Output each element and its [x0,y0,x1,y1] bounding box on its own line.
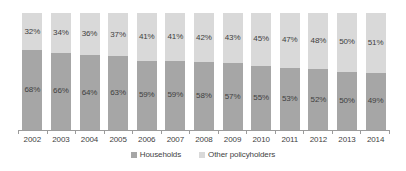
axis-tick [132,130,133,134]
bar-segment-households[interactable]: 49% [366,73,386,130]
bar-group[interactable]: 45% 55% [247,13,276,130]
bar-segment-label: 45% [253,35,269,43]
bar-stack[interactable]: 51% 49% [366,13,386,130]
x-axis-labels: 2002 2003 2004 2005 2006 2007 2008 2009 … [18,135,390,145]
bar-group[interactable]: 50% 50% [333,13,362,130]
x-axis-tick-label: 2014 [361,135,390,145]
bar-stack[interactable]: 48% 52% [308,13,328,130]
bar-stack[interactable]: 34% 66% [51,13,71,130]
bar-segment-other-policyholders[interactable]: 36% [80,13,100,55]
bar-stack[interactable]: 37% 63% [108,13,128,130]
bar-segment-label: 43% [225,34,241,42]
bar-stack[interactable]: 42% 58% [194,13,214,130]
legend-item-households[interactable]: Households [131,150,181,160]
legend-item-other-policyholders[interactable]: Other policyholders [199,150,275,160]
bar-segment-households[interactable]: 57% [223,63,243,130]
x-axis-tick-label: 2002 [18,135,47,145]
bar-segment-other-policyholders[interactable]: 32% [22,13,42,50]
bar-segment-label: 48% [311,37,327,45]
axis-tick [218,130,219,134]
bar-segment-other-policyholders[interactable]: 41% [165,13,185,61]
axis-tick [47,130,48,134]
bar-segment-label: 64% [82,89,98,97]
bar-segment-other-policyholders[interactable]: 47% [280,13,300,68]
bar-segment-other-policyholders[interactable]: 37% [108,13,128,56]
x-axis-tick-label: 2005 [104,135,133,145]
x-axis-tick-label: 2008 [190,135,219,145]
bar-segment-households[interactable]: 59% [165,61,185,130]
bar-segment-label: 41% [139,33,155,41]
bar-segment-other-policyholders[interactable]: 50% [337,13,357,72]
bar-segment-households[interactable]: 50% [337,72,357,131]
axis-tick [275,130,276,134]
x-axis-tick-label: 2009 [218,135,247,145]
bar-segment-other-policyholders[interactable]: 43% [223,13,243,63]
bar-segment-other-policyholders[interactable]: 34% [51,13,71,53]
bar-group[interactable]: 34% 66% [47,13,76,130]
bar-segment-households[interactable]: 66% [51,53,71,130]
bar-group[interactable]: 41% 59% [161,13,190,130]
legend-swatch-icon [131,152,137,158]
bar-segment-label: 47% [282,36,298,44]
chart-legend: Households Other policyholders [0,150,406,160]
bar-stack[interactable]: 41% 59% [165,13,185,130]
bar-segment-households[interactable]: 53% [280,68,300,130]
x-axis-tick-label: 2003 [47,135,76,145]
bar-segment-label: 41% [167,33,183,41]
bar-stack[interactable]: 45% 55% [251,13,271,130]
bar-segment-label: 36% [82,30,98,38]
axis-tick [75,130,76,134]
axis-tick [332,130,333,134]
bar-group[interactable]: 32% 68% [18,13,47,130]
axis-tick [104,130,105,134]
bar-segment-households[interactable]: 52% [308,69,328,130]
bar-segment-households[interactable]: 55% [251,66,271,130]
bar-segment-households[interactable]: 59% [137,61,157,130]
bar-group[interactable]: 51% 49% [361,13,390,130]
plot-area: 32% 68% 34% 66% 36% [18,13,390,130]
bar-segment-label: 34% [53,29,69,37]
legend-item-label: Other policyholders [208,150,275,160]
bar-segment-households[interactable]: 63% [108,56,128,130]
legend-swatch-icon [199,152,205,158]
axis-tick [18,130,19,134]
bar-stack[interactable]: 41% 59% [137,13,157,130]
bar-segment-label: 58% [196,92,212,100]
bar-segment-other-policyholders[interactable]: 41% [137,13,157,61]
bar-segment-other-policyholders[interactable]: 48% [308,13,328,69]
bar-group[interactable]: 37% 63% [104,13,133,130]
bar-segment-label: 63% [110,89,126,97]
bar-group[interactable]: 47% 53% [275,13,304,130]
x-axis-tick-label: 2012 [304,135,333,145]
x-axis-ticks [18,130,390,134]
bar-group[interactable]: 42% 58% [190,13,219,130]
bar-stack[interactable]: 36% 64% [80,13,100,130]
bar-stack[interactable]: 50% 50% [337,13,357,130]
bar-segment-label: 32% [24,28,40,36]
bar-group[interactable]: 43% 57% [218,13,247,130]
x-axis-tick-label: 2007 [161,135,190,145]
bar-segment-other-policyholders[interactable]: 51% [366,13,386,73]
bar-stack[interactable]: 32% 68% [22,13,42,130]
bar-stack[interactable]: 43% 57% [223,13,243,130]
bar-segment-label: 53% [282,95,298,103]
bar-segment-label: 66% [53,87,69,95]
x-axis-tick-label: 2010 [247,135,276,145]
axis-tick [303,130,304,134]
x-axis-tick-label: 2011 [275,135,304,145]
bar-segment-households[interactable]: 58% [194,62,214,130]
bar-segment-households[interactable]: 64% [80,55,100,130]
bar-segment-label: 52% [311,96,327,104]
axis-tick [360,130,361,134]
bar-group[interactable]: 41% 59% [132,13,161,130]
bar-group[interactable]: 36% 64% [75,13,104,130]
bar-group[interactable]: 48% 52% [304,13,333,130]
bar-segment-other-policyholders[interactable]: 45% [251,13,271,66]
bar-segment-label: 55% [253,94,269,102]
bar-segment-other-policyholders[interactable]: 42% [194,13,214,62]
bar-segment-households[interactable]: 68% [22,50,42,130]
bar-stack[interactable]: 47% 53% [280,13,300,130]
axis-tick [246,130,247,134]
axis-tick [189,130,190,134]
x-axis-tick-label: 2004 [75,135,104,145]
